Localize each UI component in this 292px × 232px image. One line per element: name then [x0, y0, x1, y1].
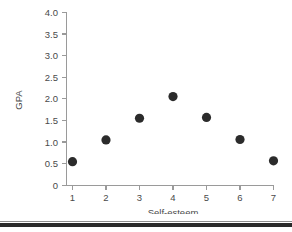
data-point: [135, 114, 144, 123]
x-tick-label: 3: [137, 192, 142, 203]
y-tick-label: 3.0: [45, 50, 58, 61]
chart-canvas: 4.0 3.5 3.0 2.5 2.0 1.5 1.0 0.5 0 1 2 3 …: [0, 0, 292, 214]
y-tick-label: 4.0: [45, 7, 58, 18]
x-tick-label: 2: [103, 192, 108, 203]
scatter-plot-figure: 4.0 3.5 3.0 2.5 2.0 1.5 1.0 0.5 0 1 2 3 …: [0, 0, 292, 232]
y-axis-title: GPA: [13, 90, 24, 110]
footer-rule-thin: [0, 221, 292, 222]
data-point: [68, 157, 77, 166]
y-tick-label: 3.5: [45, 29, 58, 40]
data-point: [202, 113, 211, 122]
footer-rule: [0, 223, 292, 227]
x-axis-title: Self-esteem: [148, 207, 199, 214]
y-tick-label: 1.0: [45, 137, 58, 148]
y-axis-ticks: [62, 13, 67, 186]
x-tick-label: 5: [204, 192, 209, 203]
y-tick-label: 0: [53, 180, 58, 191]
x-axis-ticks: [73, 186, 274, 191]
y-tick-label: 1.5: [45, 115, 58, 126]
data-point: [235, 135, 244, 144]
data-point: [168, 92, 177, 101]
data-point: [269, 156, 278, 165]
y-tick-label: 0.5: [45, 158, 58, 169]
x-axis-tick-labels: 1 2 3 4 5 6 7: [70, 192, 276, 203]
x-tick-label: 1: [70, 192, 75, 203]
x-tick-label: 6: [237, 192, 242, 203]
data-points-group: [68, 92, 278, 166]
x-tick-label: 4: [170, 192, 175, 203]
y-tick-label: 2.5: [45, 72, 58, 83]
x-tick-label: 7: [271, 192, 276, 203]
y-tick-label: 2.0: [45, 93, 58, 104]
data-point: [101, 135, 110, 144]
y-axis-tick-labels: 4.0 3.5 3.0 2.5 2.0 1.5 1.0 0.5 0: [45, 7, 58, 191]
